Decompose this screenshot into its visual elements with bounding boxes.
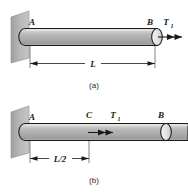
torsion-shaft-figure: A B T 1 L (a) xyxy=(0,0,188,196)
label-b-free-end: B xyxy=(157,110,164,120)
label-a-free-end: B xyxy=(146,17,153,27)
dimension-label-l-half: L/2 xyxy=(53,154,67,164)
torque-subscript-b: 1 xyxy=(118,116,121,122)
shaft-a xyxy=(19,28,162,45)
label-a-fixed-end: A xyxy=(28,17,35,27)
label-b-section-point: C xyxy=(86,110,93,120)
torque-symbol-b: T xyxy=(110,110,116,120)
dimension-label-l: L xyxy=(89,59,96,69)
caption-a: (a) xyxy=(89,81,99,90)
caption-b: (b) xyxy=(89,176,99,185)
torque-subscript-a: 1 xyxy=(171,23,174,29)
shaft-end-cap-b xyxy=(161,123,172,140)
torque-symbol-a: T xyxy=(163,17,169,27)
label-b-fixed-end: A xyxy=(28,112,35,122)
shaft-body-a xyxy=(19,29,157,46)
